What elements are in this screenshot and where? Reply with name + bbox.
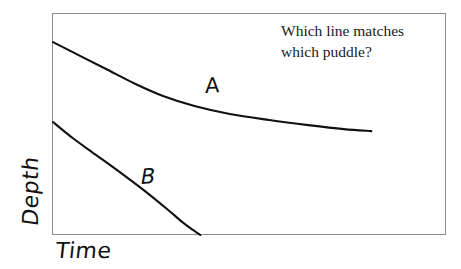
question-line-2: which puddle? [281,41,441,62]
question-line-1: Which line matches [281,20,441,41]
x-axis-label: Time [54,238,112,263]
question-prompt: Which line matches which puddle? [281,20,441,62]
curve-label-a: A [205,73,220,98]
figure-canvas: A B Depth Time Which line matches which … [0,0,461,269]
y-axis-label: Depth [18,154,43,227]
curve-label-b: B [141,164,156,189]
